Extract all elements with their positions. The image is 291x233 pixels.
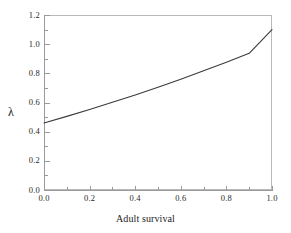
y-tick-label: 0.4 bbox=[14, 127, 40, 136]
y-tick-label-wrap: 0.6 bbox=[12, 98, 40, 107]
x-tick-label: 0.8 bbox=[211, 194, 241, 203]
x-tick-minor bbox=[112, 187, 113, 190]
x-tick-major bbox=[272, 186, 273, 190]
y-tick-label-wrap: 0.8 bbox=[12, 69, 40, 78]
y-tick-label-wrap: 0.4 bbox=[12, 127, 40, 136]
y-tick-major bbox=[45, 190, 50, 191]
y-tick-minor bbox=[45, 88, 48, 89]
y-tick-major bbox=[45, 44, 50, 45]
y-tick-major bbox=[45, 15, 50, 16]
y-tick-major bbox=[45, 161, 50, 162]
y-tick-label-wrap: 1.2 bbox=[12, 11, 40, 20]
x-tick-minor bbox=[249, 187, 250, 190]
x-tick-minor bbox=[158, 187, 159, 190]
y-tick-minor bbox=[45, 146, 48, 147]
y-tick-minor bbox=[45, 59, 48, 60]
y-tick-major bbox=[45, 132, 50, 133]
y-tick-label: 1.2 bbox=[14, 11, 40, 20]
x-tick-label: 0.6 bbox=[166, 194, 196, 203]
chart-figure: 0.00.20.40.60.81.01.2 0.00.20.40.60.81.0… bbox=[0, 0, 291, 233]
y-tick-label: 1.0 bbox=[14, 40, 40, 49]
x-tick-major bbox=[181, 186, 182, 190]
x-tick-label: 0.0 bbox=[29, 194, 59, 203]
x-tick-major bbox=[44, 186, 45, 190]
y-axis-title: λ bbox=[8, 106, 14, 118]
x-tick-major bbox=[90, 186, 91, 190]
x-tick-minor bbox=[204, 187, 205, 190]
y-tick-label: 0.2 bbox=[14, 156, 40, 165]
x-tick-label: 1.0 bbox=[257, 194, 287, 203]
y-tick-minor bbox=[45, 117, 48, 118]
x-tick-label: 0.4 bbox=[120, 194, 150, 203]
y-tick-label: 0.6 bbox=[14, 98, 40, 107]
x-tick-major bbox=[226, 186, 227, 190]
x-tick-major bbox=[135, 186, 136, 190]
y-tick-label: 0.8 bbox=[14, 69, 40, 78]
y-tick-label-wrap: 1.0 bbox=[12, 40, 40, 49]
y-tick-minor bbox=[45, 30, 48, 31]
plot-area-frame bbox=[44, 15, 272, 190]
x-axis-title: Adult survival bbox=[0, 213, 291, 224]
x-tick-label: 0.2 bbox=[75, 194, 105, 203]
y-tick-major bbox=[45, 73, 50, 74]
y-tick-major bbox=[45, 103, 50, 104]
y-tick-minor bbox=[45, 175, 48, 176]
y-tick-label-wrap: 0.2 bbox=[12, 156, 40, 165]
x-axis-line bbox=[44, 190, 273, 191]
x-tick-minor bbox=[67, 187, 68, 190]
